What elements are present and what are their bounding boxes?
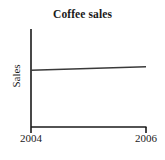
chart-figure: Coffee sales Sales 2004 2006: [0, 0, 165, 160]
data-series-line: [31, 67, 146, 70]
x-axis-tick-label-2004: 2004: [13, 132, 49, 145]
x-axis-tick-label-2006: 2006: [128, 132, 164, 145]
